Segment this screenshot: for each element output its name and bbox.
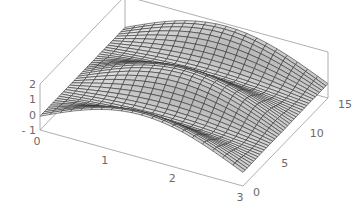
surface-plot: - 10120123051015 xyxy=(0,0,360,207)
z-tick-label: 2 xyxy=(29,78,36,91)
z-tick-label: 1 xyxy=(29,93,36,106)
x-tick-label: 3 xyxy=(237,191,244,204)
x-tick-label: 0 xyxy=(34,135,41,148)
x-tick-label: 2 xyxy=(169,172,176,185)
y-tick-label: 0 xyxy=(253,186,260,199)
y-tick-label: 15 xyxy=(338,98,352,111)
z-tick-label: 0 xyxy=(29,109,36,122)
y-tick-label: 5 xyxy=(281,157,288,170)
surface-mesh xyxy=(40,21,328,173)
y-tick-label: 10 xyxy=(310,127,324,140)
x-tick-label: 1 xyxy=(101,154,108,167)
